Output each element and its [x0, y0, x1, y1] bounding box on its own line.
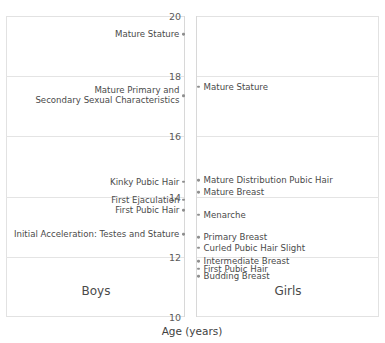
data-point-dot — [197, 85, 200, 88]
data-point-dot — [182, 94, 185, 97]
event-marker: Mature Breast — [197, 187, 264, 198]
data-point-dot — [197, 179, 200, 182]
y-tick-20: 20 — [169, 11, 183, 22]
event-marker: Mature Stature — [115, 29, 185, 40]
event-label: Menarche — [204, 209, 246, 220]
event-marker: Curled Pubic Hair Slight — [197, 242, 305, 253]
data-point-dot — [182, 209, 185, 212]
axis-title-age: Age (years) — [162, 325, 223, 337]
data-point-dot — [197, 236, 200, 239]
event-label: First Pubic Hair — [115, 205, 179, 216]
event-label: First Ejaculation — [111, 194, 179, 205]
data-point-dot — [197, 213, 200, 216]
data-point-dot — [197, 191, 200, 194]
panel-caption-girls: Girls — [274, 284, 301, 298]
event-marker: Kinky Pubic Hair — [110, 176, 185, 187]
event-label: Mature Distribution Pubic Hair — [204, 175, 333, 186]
event-marker: Initial Acceleration: Testes and Stature — [14, 229, 185, 240]
event-marker: First Ejaculation — [111, 194, 185, 205]
event-label: Mature Stature — [204, 81, 268, 92]
panel-caption-boys: Boys — [82, 284, 111, 298]
event-label: Budding Breast — [204, 271, 270, 282]
data-point-dot — [197, 268, 200, 271]
event-label: Initial Acceleration: Testes and Stature — [14, 229, 179, 240]
event-marker: Menarche — [197, 209, 246, 220]
event-marker: Budding Breast — [197, 271, 270, 282]
event-label: Curled Pubic Hair Slight — [204, 242, 306, 253]
event-label: Mature Breast — [204, 187, 265, 198]
axis-spine-left — [184, 16, 185, 317]
y-tick-10: 10 — [169, 312, 183, 323]
event-marker: Mature Primary and Secondary Sexual Char… — [35, 85, 185, 106]
event-marker: Mature Stature — [197, 81, 268, 92]
y-tick-16: 16 — [169, 131, 183, 142]
event-marker: Mature Distribution Pubic Hair — [197, 175, 333, 186]
axis-gutter — [185, 16, 196, 317]
data-point-dot — [182, 180, 185, 183]
event-label: Primary Breast — [204, 232, 268, 243]
y-tick-18: 18 — [169, 71, 183, 82]
data-point-dot — [197, 246, 200, 249]
event-label: Mature Primary and Secondary Sexual Char… — [35, 85, 179, 106]
event-label: Kinky Pubic Hair — [110, 176, 179, 187]
event-marker: Primary Breast — [197, 232, 267, 243]
puberty-timeline-chart: 101214161820 Mature StatureMature Primar… — [0, 0, 385, 343]
y-tick-12: 12 — [169, 251, 183, 262]
data-point-dot — [182, 233, 185, 236]
data-point-dot — [197, 260, 200, 263]
data-point-dot — [182, 198, 185, 201]
data-point-dot — [197, 275, 200, 278]
event-label: Mature Stature — [115, 29, 179, 40]
event-marker: First Pubic Hair — [115, 205, 185, 216]
data-point-dot — [182, 33, 185, 36]
